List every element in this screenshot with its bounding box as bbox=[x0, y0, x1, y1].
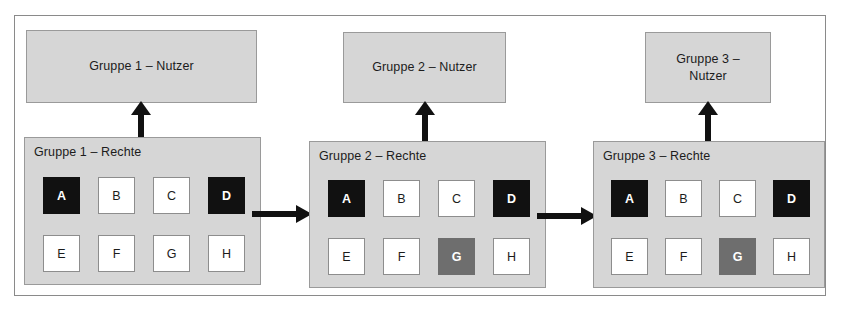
group-2-cell-h-label: H bbox=[507, 250, 516, 264]
group-2-users-label: Gruppe 2 – Nutzer bbox=[372, 59, 477, 76]
group-2-cell-a-label: A bbox=[342, 192, 351, 206]
group-3-rights-box: Gruppe 3 – Rechte A B C D E F G bbox=[593, 141, 825, 288]
group-1-cell-g-label: G bbox=[167, 247, 177, 261]
group-1-cell-c-label: C bbox=[167, 189, 176, 203]
arrow-right-group-2-to-3 bbox=[537, 205, 597, 227]
group-3-cell-e[interactable]: E bbox=[611, 238, 648, 275]
group-3-users-box: Gruppe 3 – Nutzer bbox=[645, 32, 771, 103]
group-1-rights-box: Gruppe 1 – Rechte A B C D E F G bbox=[24, 137, 261, 285]
group-1-cell-h-label: H bbox=[222, 247, 231, 261]
group-2-cell-c-label: C bbox=[452, 192, 461, 206]
group-1-cell-b[interactable]: B bbox=[98, 177, 135, 214]
group-1-cell-a-label: A bbox=[57, 189, 66, 203]
group-3-cell-g[interactable]: G bbox=[719, 238, 756, 275]
group-3-cell-c-label: C bbox=[733, 192, 742, 206]
group-2-cell-e-label: E bbox=[342, 250, 350, 264]
group-1-cell-h[interactable]: H bbox=[208, 235, 245, 272]
group-2-cell-a[interactable]: A bbox=[328, 180, 365, 217]
group-3-cell-h[interactable]: H bbox=[773, 238, 810, 275]
group-2-cell-g[interactable]: G bbox=[438, 238, 475, 275]
group-1-cell-a[interactable]: A bbox=[43, 177, 80, 214]
group-2-cell-b[interactable]: B bbox=[383, 180, 420, 217]
group-3-cell-a-label: A bbox=[625, 192, 634, 206]
group-3-cell-g-label: G bbox=[733, 250, 743, 264]
group-1-users-label: Gruppe 1 – Nutzer bbox=[89, 58, 194, 75]
group-3-cell-b-label: B bbox=[679, 192, 687, 206]
group-1-cell-c[interactable]: C bbox=[153, 177, 190, 214]
arrow-up-group-1 bbox=[128, 101, 154, 141]
group-2-rights-box: Gruppe 2 – Rechte A B C D E F G bbox=[309, 141, 546, 288]
group-3-cell-f[interactable]: F bbox=[665, 238, 702, 275]
group-2-cell-d[interactable]: D bbox=[493, 180, 530, 217]
group-3-cell-c[interactable]: C bbox=[719, 180, 756, 217]
arrow-right-group-1-to-2 bbox=[252, 203, 312, 225]
group-2-cell-b-label: B bbox=[397, 192, 405, 206]
group-3-cell-f-label: F bbox=[680, 250, 688, 264]
group-2-cell-f[interactable]: F bbox=[383, 238, 420, 275]
group-3-cell-h-label: H bbox=[787, 250, 796, 264]
group-1-users-box: Gruppe 1 – Nutzer bbox=[26, 30, 257, 103]
group-2-cell-e[interactable]: E bbox=[328, 238, 365, 275]
group-1-cell-e[interactable]: E bbox=[43, 235, 80, 272]
group-2-cell-h[interactable]: H bbox=[493, 238, 530, 275]
group-3-cell-d-label: D bbox=[787, 192, 796, 206]
group-2-rights-grid: A B C D E F G H bbox=[310, 142, 545, 287]
arrow-up-group-2 bbox=[412, 101, 438, 141]
diagram-canvas: Gruppe 1 – Nutzer Gruppe 1 – Rechte A B … bbox=[0, 0, 845, 312]
group-2-cell-g-label: G bbox=[452, 250, 462, 264]
group-2-cell-c[interactable]: C bbox=[438, 180, 475, 217]
group-1-rights-grid: A B C D E F G H bbox=[25, 138, 260, 284]
group-3-cell-b[interactable]: B bbox=[665, 180, 702, 217]
group-3-cell-d[interactable]: D bbox=[773, 180, 810, 217]
group-1-cell-d[interactable]: D bbox=[208, 177, 245, 214]
group-1-cell-f-label: F bbox=[113, 247, 121, 261]
arrow-up-group-3 bbox=[695, 101, 721, 141]
group-3-cell-e-label: E bbox=[625, 250, 633, 264]
group-3-users-label: Gruppe 3 – Nutzer bbox=[676, 51, 740, 85]
group-1-cell-f[interactable]: F bbox=[98, 235, 135, 272]
group-3-rights-grid: A B C D E F G H bbox=[594, 142, 824, 287]
group-1-cell-g[interactable]: G bbox=[153, 235, 190, 272]
group-1-cell-b-label: B bbox=[112, 189, 120, 203]
group-1-cell-e-label: E bbox=[57, 247, 65, 261]
group-2-cell-f-label: F bbox=[398, 250, 406, 264]
group-1-cell-d-label: D bbox=[222, 189, 231, 203]
group-3-cell-a[interactable]: A bbox=[611, 180, 648, 217]
group-2-cell-d-label: D bbox=[507, 192, 516, 206]
group-2-users-box: Gruppe 2 – Nutzer bbox=[343, 32, 506, 103]
